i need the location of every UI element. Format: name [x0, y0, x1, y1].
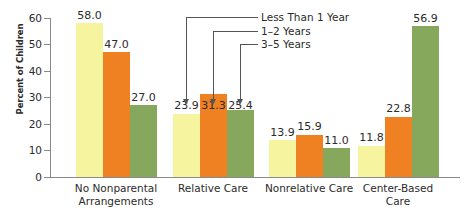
- bar-g1-s0[interactable]: [173, 114, 200, 177]
- bar-value-g3-s2: 56.9: [413, 12, 438, 25]
- bar-g2-s0[interactable]: [269, 140, 296, 177]
- y-tick-label-40: 40: [2, 65, 42, 77]
- category-label-1: Relative Care: [178, 182, 248, 195]
- y-tick-label-30: 30: [2, 91, 42, 103]
- y-tick-label-50: 50: [2, 38, 42, 50]
- legend-leader-arrow-0: [183, 99, 189, 105]
- category-label-0-line-1: Arrangements: [75, 195, 157, 208]
- category-label-0-line-0: No Nonparental: [75, 182, 157, 195]
- bar-g0-s1[interactable]: [103, 52, 130, 177]
- legend-leader-line-1-horizontal: [213, 31, 258, 32]
- category-label-1-line-0: Relative Care: [178, 182, 248, 195]
- category-label-3: Center-Based Care: [363, 182, 433, 207]
- category-label-3-line-1: Care: [363, 195, 433, 208]
- y-tick-60: [44, 18, 51, 19]
- y-tick-label-20: 20: [2, 118, 42, 130]
- legend-leader-arrow-2: [237, 99, 243, 105]
- bar-value-g2-s0: 13.9: [270, 126, 295, 139]
- category-label-3-line-0: Center-Based: [363, 182, 433, 195]
- y-tick-label-60: 60: [2, 12, 42, 24]
- bar-chart: Percent of Children 60 50 40 30 20 10 0 …: [0, 0, 468, 220]
- legend-label-1: 1–2 Years: [261, 25, 311, 37]
- bar-g0-s2[interactable]: [130, 105, 157, 177]
- bar-g3-s1[interactable]: [385, 117, 412, 177]
- y-tick-label-0: 0: [2, 171, 42, 183]
- y-tick-label-10: 10: [2, 144, 42, 156]
- category-label-2-line-0: Nonrelative Care: [265, 182, 353, 195]
- x-axis-line: [50, 177, 460, 178]
- bar-value-g0-s0: 58.0: [77, 9, 102, 22]
- y-tick-30: [44, 97, 51, 98]
- legend-label-0: Less Than 1 Year: [261, 11, 349, 23]
- y-tick-20: [44, 124, 51, 125]
- bar-g2-s1[interactable]: [296, 135, 323, 177]
- y-tick-50: [44, 44, 51, 45]
- y-tick-0: [44, 177, 51, 178]
- legend-leader-line-0-horizontal: [186, 17, 258, 18]
- y-tick-10: [44, 150, 51, 151]
- y-tick-40: [44, 71, 51, 72]
- bar-g2-s2[interactable]: [323, 148, 350, 177]
- bar-value-g0-s2: 27.0: [131, 91, 156, 104]
- legend-leader-line-2-vertical: [240, 44, 241, 99]
- category-label-0: No Nonparental Arrangements: [75, 182, 157, 207]
- bar-g1-s2[interactable]: [227, 110, 254, 177]
- bar-value-g3-s0: 11.8: [359, 131, 384, 144]
- bar-value-g3-s1: 22.8: [386, 102, 411, 115]
- category-label-2: Nonrelative Care: [265, 182, 353, 195]
- bar-g3-s2[interactable]: [412, 26, 439, 177]
- bar-value-g2-s1: 15.9: [297, 120, 322, 133]
- bar-value-g2-s2: 11.0: [324, 134, 349, 147]
- bar-g0-s0[interactable]: [76, 23, 103, 177]
- legend-leader-line-2-horizontal: [240, 44, 258, 45]
- bar-value-g0-s1: 47.0: [104, 38, 129, 51]
- legend-leader-line-1-vertical: [213, 31, 214, 99]
- legend-label-2: 3–5 Years: [261, 38, 311, 50]
- legend-leader-line-0-vertical: [186, 17, 187, 99]
- legend-leader-arrow-1: [210, 99, 216, 105]
- bar-g3-s0[interactable]: [358, 146, 385, 177]
